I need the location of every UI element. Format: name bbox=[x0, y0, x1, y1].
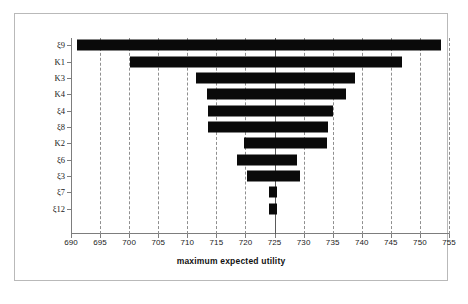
x-tick-label-700: 700 bbox=[114, 238, 144, 247]
bar-ξ7 bbox=[269, 187, 277, 198]
y-tick-label-K4: K4 bbox=[55, 89, 65, 99]
y-tick-ξ3 bbox=[67, 176, 71, 177]
chart-frame: ξ9K1K3K4ξ4ξ8K2ξ6ξ3ξ7ξ12 6906957007057107… bbox=[14, 13, 448, 281]
x-tick-label-720: 720 bbox=[230, 238, 260, 247]
bar-K4 bbox=[207, 89, 346, 100]
gridline-715 bbox=[216, 38, 217, 234]
x-tick-label-735: 735 bbox=[318, 238, 348, 247]
gridline-700 bbox=[129, 38, 130, 234]
y-tick-ξ7 bbox=[67, 192, 71, 193]
y-tick-label-ξ3: ξ3 bbox=[57, 171, 65, 181]
x-tick-label-755: 755 bbox=[434, 238, 464, 247]
y-tick-label-ξ7: ξ7 bbox=[57, 187, 65, 197]
y-tick-label-ξ6: ξ6 bbox=[57, 155, 65, 165]
gridline-730 bbox=[304, 38, 305, 234]
bar-K2 bbox=[244, 138, 327, 149]
gridline-695 bbox=[100, 38, 101, 234]
x-tick-label-725: 725 bbox=[260, 238, 290, 247]
bar-ξ12 bbox=[269, 203, 277, 214]
gridline-705 bbox=[158, 38, 159, 234]
y-tick-K1 bbox=[67, 62, 71, 63]
bar-ξ6 bbox=[237, 154, 297, 165]
x-tick-label-705: 705 bbox=[143, 238, 173, 247]
y-tick-ξ4 bbox=[67, 111, 71, 112]
x-axis-title: maximum expected utility bbox=[15, 256, 447, 266]
x-tick-label-710: 710 bbox=[172, 238, 202, 247]
bar-ξ4 bbox=[208, 105, 333, 116]
bar-ξ8 bbox=[208, 122, 328, 133]
y-tick-label-ξ9: ξ9 bbox=[57, 40, 65, 50]
gridline-755 bbox=[449, 38, 450, 234]
x-tick-label-695: 695 bbox=[85, 238, 115, 247]
x-tick-label-745: 745 bbox=[376, 238, 406, 247]
y-tick-label-ξ12: ξ12 bbox=[53, 204, 65, 214]
gridline-735 bbox=[333, 38, 334, 234]
y-tick-ξ6 bbox=[67, 160, 71, 161]
x-tick-label-715: 715 bbox=[201, 238, 231, 247]
y-tick-label-ξ8: ξ8 bbox=[57, 122, 65, 132]
bar-K1 bbox=[130, 56, 402, 67]
y-tick-ξ9 bbox=[67, 45, 71, 46]
y-tick-label-K1: K1 bbox=[55, 57, 65, 67]
y-tick-K2 bbox=[67, 143, 71, 144]
x-tick-label-750: 750 bbox=[405, 238, 435, 247]
x-axis-line bbox=[71, 233, 449, 234]
gridline-740 bbox=[362, 38, 363, 234]
x-tick-label-690: 690 bbox=[56, 238, 86, 247]
y-axis-line bbox=[71, 38, 72, 234]
y-tick-K3 bbox=[67, 78, 71, 79]
y-tick-label-K2: K2 bbox=[55, 138, 65, 148]
bar-ξ3 bbox=[247, 171, 300, 182]
gridline-720 bbox=[245, 38, 246, 234]
x-tick-label-740: 740 bbox=[347, 238, 377, 247]
y-tick-ξ8 bbox=[67, 127, 71, 128]
y-tick-K4 bbox=[67, 94, 71, 95]
bar-ξ9 bbox=[77, 40, 441, 51]
y-tick-label-ξ4: ξ4 bbox=[57, 106, 65, 116]
y-tick-label-K3: K3 bbox=[55, 73, 65, 83]
gridline-750 bbox=[420, 38, 421, 234]
gridline-745 bbox=[391, 38, 392, 234]
plot-area: ξ9K1K3K4ξ4ξ8K2ξ6ξ3ξ7ξ12 bbox=[71, 38, 449, 234]
y-tick-ξ12 bbox=[67, 209, 71, 210]
x-tick-label-730: 730 bbox=[289, 238, 319, 247]
gridline-710 bbox=[187, 38, 188, 234]
bar-K3 bbox=[196, 73, 355, 84]
